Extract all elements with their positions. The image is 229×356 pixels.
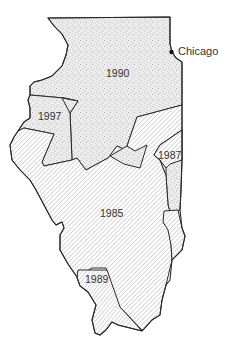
region-label-1987: 1987 <box>158 150 181 161</box>
chicago-dot <box>169 50 173 54</box>
region-label-1997: 1997 <box>38 111 61 122</box>
region-label-1989: 1989 <box>85 274 108 285</box>
region-label-1985: 1985 <box>100 208 123 219</box>
region-label-1990: 1990 <box>106 68 129 79</box>
city-label-chicago: Chicago <box>178 46 218 57</box>
